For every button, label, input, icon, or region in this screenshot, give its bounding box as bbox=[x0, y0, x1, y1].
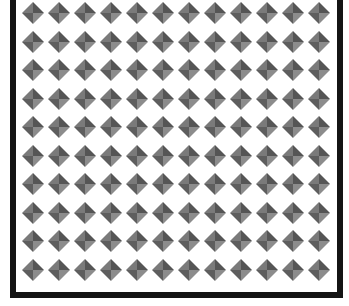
pyramid-stud-icon bbox=[152, 230, 174, 252]
pyramid-stud-icon bbox=[178, 31, 200, 53]
pyramid-stud-icon bbox=[126, 202, 148, 224]
pyramid-stud-icon bbox=[126, 230, 148, 252]
pyramid-stud-icon bbox=[22, 59, 44, 81]
pyramid-stud-icon bbox=[48, 116, 70, 138]
pyramid-stud-icon bbox=[22, 2, 44, 24]
pyramid-stud-icon bbox=[100, 173, 122, 195]
pyramid-stud-icon bbox=[178, 88, 200, 110]
pyramid-stud-icon bbox=[22, 173, 44, 195]
pyramid-stud-icon bbox=[308, 59, 330, 81]
pyramid-stud-icon bbox=[178, 259, 200, 281]
pyramid-stud-icon bbox=[308, 259, 330, 281]
pyramid-stud-icon bbox=[48, 145, 70, 167]
pyramid-stud-icon bbox=[282, 116, 304, 138]
pyramid-stud-icon bbox=[256, 59, 278, 81]
pyramid-stud-icon bbox=[100, 116, 122, 138]
pyramid-stud-icon bbox=[204, 2, 226, 24]
pyramid-stud-icon bbox=[308, 116, 330, 138]
pyramid-stud-icon bbox=[230, 31, 252, 53]
pyramid-stud-icon bbox=[48, 230, 70, 252]
pyramid-stud-icon bbox=[152, 88, 174, 110]
pyramid-stud-icon bbox=[126, 145, 148, 167]
pyramid-stud-icon bbox=[204, 202, 226, 224]
pyramid-stud-icon bbox=[152, 59, 174, 81]
pyramid-stud-icon bbox=[178, 145, 200, 167]
pyramid-stud-icon bbox=[126, 88, 148, 110]
pyramid-stud-icon bbox=[48, 2, 70, 24]
pyramid-stud-icon bbox=[48, 202, 70, 224]
pyramid-stud-icon bbox=[74, 230, 96, 252]
pyramid-stud-icon bbox=[230, 230, 252, 252]
pyramid-stud-icon bbox=[22, 145, 44, 167]
pyramid-stud-icon bbox=[230, 173, 252, 195]
pyramid-stud-icon bbox=[204, 230, 226, 252]
pyramid-stud-icon bbox=[178, 116, 200, 138]
pyramid-stud-icon bbox=[48, 88, 70, 110]
pyramid-stud-icon bbox=[256, 202, 278, 224]
pyramid-stud-icon bbox=[230, 145, 252, 167]
pyramid-stud-icon bbox=[256, 116, 278, 138]
pyramid-stud-icon bbox=[152, 259, 174, 281]
pyramid-stud-icon bbox=[204, 259, 226, 281]
pyramid-stud-icon bbox=[204, 173, 226, 195]
pyramid-stud-icon bbox=[204, 31, 226, 53]
pyramid-stud-icon bbox=[256, 145, 278, 167]
pyramid-stud-icon bbox=[178, 202, 200, 224]
pyramid-stud-icon bbox=[48, 31, 70, 53]
pyramid-stud-icon bbox=[74, 88, 96, 110]
pyramid-stud-icon bbox=[100, 259, 122, 281]
pyramid-stud-icon bbox=[256, 2, 278, 24]
pyramid-stud-icon bbox=[308, 202, 330, 224]
pyramid-stud-icon bbox=[100, 145, 122, 167]
pyramid-stud-icon bbox=[74, 259, 96, 281]
pyramid-stud-icon bbox=[282, 173, 304, 195]
pyramid-stud-icon bbox=[74, 202, 96, 224]
pyramid-stud-icon bbox=[282, 31, 304, 53]
pyramid-stud-icon bbox=[22, 88, 44, 110]
pyramid-stud-icon bbox=[22, 259, 44, 281]
pyramid-stud-icon bbox=[22, 230, 44, 252]
pyramid-stud-icon bbox=[74, 116, 96, 138]
pyramid-stud-icon bbox=[282, 88, 304, 110]
pyramid-stud-icon bbox=[308, 145, 330, 167]
pyramid-stud-icon bbox=[152, 202, 174, 224]
pyramid-stud-icon bbox=[204, 145, 226, 167]
pyramid-stud-icon bbox=[308, 31, 330, 53]
pyramid-stud-icon bbox=[22, 202, 44, 224]
pyramid-stud-icon bbox=[74, 31, 96, 53]
pyramid-stud-icon bbox=[282, 259, 304, 281]
pyramid-stud-icon bbox=[204, 116, 226, 138]
pyramid-stud-icon bbox=[308, 2, 330, 24]
pyramid-stud-icon bbox=[256, 31, 278, 53]
pyramid-stud-icon bbox=[100, 31, 122, 53]
pyramid-stud-icon bbox=[152, 173, 174, 195]
pyramid-stud-icon bbox=[152, 145, 174, 167]
pyramid-stud-icon bbox=[178, 173, 200, 195]
pyramid-stud-icon bbox=[178, 2, 200, 24]
pyramid-stud-icon bbox=[74, 173, 96, 195]
pyramid-stud-icon bbox=[22, 31, 44, 53]
pyramid-stud-icon bbox=[152, 31, 174, 53]
pyramid-stud-icon bbox=[100, 230, 122, 252]
pyramid-stud-icon bbox=[152, 116, 174, 138]
pyramid-stud-icon bbox=[282, 2, 304, 24]
pyramid-stud-icon bbox=[256, 173, 278, 195]
pyramid-stud-icon bbox=[256, 259, 278, 281]
pyramid-stud-icon bbox=[100, 88, 122, 110]
pyramid-stud-icon bbox=[308, 88, 330, 110]
pyramid-stud-icon bbox=[126, 31, 148, 53]
pyramid-stud-icon bbox=[100, 59, 122, 81]
pyramid-stud-icon bbox=[152, 2, 174, 24]
pyramid-stud-icon bbox=[100, 202, 122, 224]
pyramid-stud-icon bbox=[178, 59, 200, 81]
pyramid-stud-icon bbox=[308, 230, 330, 252]
pyramid-stud-icon bbox=[230, 88, 252, 110]
pyramid-stud-icon bbox=[282, 230, 304, 252]
pyramid-stud-icon bbox=[230, 2, 252, 24]
pyramid-stud-icon bbox=[282, 145, 304, 167]
pyramid-stud-icon bbox=[126, 116, 148, 138]
pyramid-stud-icon bbox=[74, 2, 96, 24]
pyramid-stud-icon bbox=[204, 59, 226, 81]
pyramid-stud-icon bbox=[308, 173, 330, 195]
pyramid-stud-icon bbox=[126, 59, 148, 81]
